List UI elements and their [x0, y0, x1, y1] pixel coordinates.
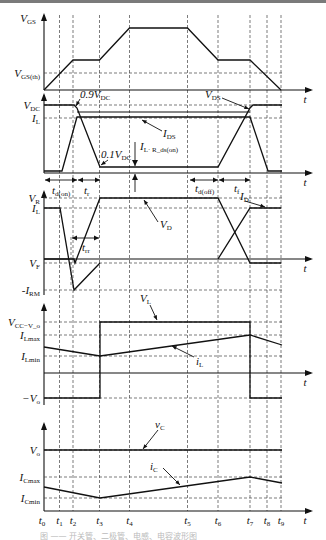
waveform-v-gs [44, 28, 281, 90]
time-axis-label: t [303, 176, 307, 188]
time-mark-t4: t4 [126, 514, 133, 528]
waveform-i-d-rise [218, 208, 281, 259]
level-label: ILmin [20, 350, 40, 364]
annotation-trr: trr [82, 241, 90, 255]
level-label: VF [29, 257, 40, 271]
time-mark-t1: t1 [56, 514, 63, 528]
level-label: -IRM [22, 284, 41, 298]
level-label: VDC [24, 99, 41, 113]
annotation-ic: iC [150, 460, 158, 474]
level-label: −Vo [22, 392, 40, 406]
figure-caption: 图 —— 开关管、二极管、电感、电容波形图 [40, 530, 290, 540]
up-arrow-icon [132, 174, 138, 180]
annotation-il: iL [196, 355, 203, 369]
dimension-arrow-icon [245, 178, 250, 183]
axis-arrow-icon [41, 303, 47, 311]
time-axis-label: t [303, 262, 307, 274]
axis-arrow-icon [41, 93, 47, 101]
annotation-0.1vdc: 0.1VDC [101, 148, 132, 162]
level-label: VGS(th) [14, 67, 40, 81]
dimension-arrow-icon [219, 178, 224, 183]
annotation-td-off: td(off) [195, 182, 215, 196]
time-mark-t8: t8 [264, 514, 271, 528]
annotation-vc: vC [155, 418, 165, 432]
annotation-il-rds: IL· R_ds(on) [139, 140, 179, 154]
time-mark-t5: t5 [184, 514, 191, 528]
time-axis-label: t [303, 514, 307, 526]
down-arrow-icon [132, 160, 138, 166]
time-mark-t0: t0 [39, 514, 46, 528]
level-label: ILmax [19, 329, 40, 343]
waveform-v-l [44, 322, 282, 398]
time-mark-t9: t9 [278, 514, 285, 528]
waveform-i-l [44, 335, 282, 356]
level-label: IL [31, 112, 40, 126]
vgs-axis-label: VGS [20, 12, 36, 26]
level-label: ICmin [20, 492, 41, 506]
switching-waveform-diagram: tVGS(th)tVDCILtVRILVF-IRMtVCC−V_oILmaxIL… [0, 0, 326, 540]
pointer-arrow-icon [101, 161, 106, 165]
annotation-tr: tr [84, 184, 90, 198]
level-label: Vo [30, 444, 41, 458]
dimension-arrow-icon [45, 178, 50, 183]
axis-arrow-icon [41, 422, 47, 430]
time-mark-t2: t2 [70, 514, 77, 528]
annotation-td-on: td(on) [52, 184, 71, 198]
annotation-ids: IDS [162, 127, 176, 141]
dimension-arrow-icon [78, 178, 83, 183]
axis-arrow-icon [41, 190, 47, 198]
time-axis-label: t [303, 376, 307, 388]
dimension-arrow-icon [94, 236, 99, 241]
dimension-arrow-icon [213, 178, 218, 183]
axis-arrow-icon [41, 13, 47, 21]
time-mark-t7: t7 [247, 514, 254, 528]
waveform-i-c [44, 477, 282, 498]
time-axis-label: t [303, 93, 307, 105]
pointer-arrow-icon [244, 105, 249, 109]
level-label: VCC−V_o [8, 316, 41, 330]
dimension-arrow-icon [72, 178, 77, 183]
waveform-i-ds [44, 117, 282, 171]
annotation-vd: VD [160, 218, 172, 232]
annotation-vl: VL [140, 292, 151, 306]
pointer-arrow-icon [144, 200, 148, 205]
pointer-arrow-icon [260, 204, 265, 208]
level-label: ICmax [19, 471, 41, 485]
time-mark-t3: t3 [96, 514, 103, 528]
time-mark-t6: t6 [215, 514, 222, 528]
